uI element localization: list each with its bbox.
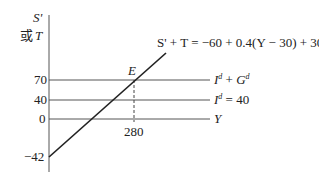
id-gd-label: Id + Gd (213, 72, 251, 87)
id-label: Id = 40 (213, 92, 249, 107)
y-axis-label-line1: S' (33, 10, 43, 25)
diagram-canvas: S' 或T 70 40 0 −42 280 E S' + T = −60 + 0… (0, 0, 319, 185)
y-tick-70: 70 (34, 72, 47, 87)
y-tick-0: 0 (39, 111, 46, 126)
y-axis-label-line2: 或T (20, 28, 43, 43)
y-tick-neg42: −42 (24, 149, 44, 164)
savings-taxes-line (49, 53, 166, 157)
y-tick-40: 40 (34, 92, 47, 107)
x-tick-280: 280 (124, 124, 144, 139)
equilibrium-label: E (127, 63, 136, 78)
equation-label: S' + T = −60 + 0.4(Y − 30) + 30 (157, 35, 319, 50)
x-axis-label: Y (214, 111, 223, 126)
